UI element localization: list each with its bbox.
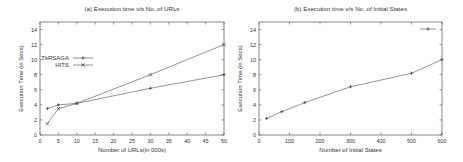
x-axis-label: Number of Initial States [319,147,381,153]
plot-frame [259,22,442,135]
y-tick-label: 4 [34,102,37,108]
y-axis-label: Execution Time (in Secs) [237,45,243,111]
y-tick-label: 14 [31,27,37,33]
y-tick-label: 8 [34,72,37,78]
x-tick-label: 20 [111,138,117,144]
y-tick-label: 12 [250,42,256,48]
y-tick-label: 0 [253,132,256,138]
x-tick-label: 0 [38,138,41,144]
y-tick-label: 12 [31,42,37,48]
series-line [47,45,224,124]
legend-label: TkRSAGA [41,55,69,61]
x-tick-label: 300 [346,138,355,144]
x-tick-label: 30 [147,138,153,144]
x-tick-label: 600 [437,138,446,144]
chart-execution-vs-urls: (a) Execution time v/s No. of URLs024681… [0,0,232,162]
legend-label: HITS [55,62,69,68]
y-tick-label: 14 [250,27,256,33]
y-tick-label: 8 [253,72,256,78]
x-tick-label: 0 [257,138,260,144]
x-tick-label: 15 [92,138,98,144]
series-line [267,60,442,119]
figure: (a) Execution time v/s No. of URLs024681… [0,0,463,162]
x-tick-label: 40 [184,138,190,144]
x-tick-label: 45 [203,138,209,144]
x-tick-label: 100 [285,138,294,144]
y-tick-label: 4 [253,102,256,108]
x-tick-label: 25 [129,138,135,144]
x-tick-label: 5 [57,138,60,144]
x-tick-label: 200 [315,138,324,144]
x-tick-label: 35 [166,138,172,144]
x-tick-label: 50 [221,138,227,144]
y-tick-label: 6 [253,87,256,93]
plot-frame [40,22,224,135]
x-tick-label: 10 [74,138,80,144]
y-tick-label: 6 [34,87,37,93]
y-tick-label: 0 [34,132,37,138]
y-axis-label: Execution Time (in Secs) [18,45,24,111]
x-axis-label: Number of URLs(in 000s) [98,147,166,153]
chart-title: (a) Execution time v/s No. of URLs [85,5,180,12]
series-line [47,75,224,109]
y-tick-label: 10 [250,57,256,63]
chart-title: (b) Execution time v/s No. of Initial St… [294,5,407,12]
y-tick-label: 2 [253,117,256,123]
x-tick-label: 500 [407,138,416,144]
chart-execution-vs-initial-states: (b) Execution time v/s No. of Initial St… [232,0,463,162]
y-tick-label: 10 [31,57,37,63]
y-tick-label: 2 [34,117,37,123]
x-tick-label: 400 [376,138,385,144]
